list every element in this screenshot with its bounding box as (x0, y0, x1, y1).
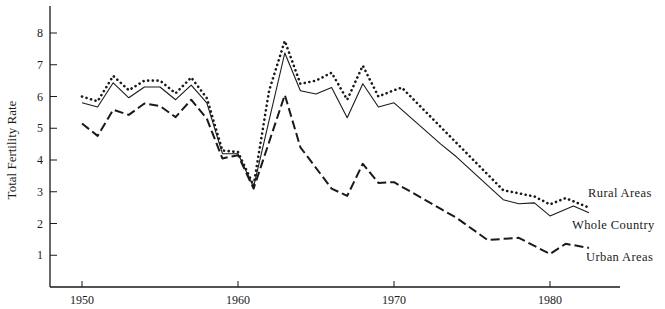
fertility-rate-chart: 12345678 1950196019701980 Total Fertilit… (0, 0, 665, 309)
x-tick-label: 1950 (70, 293, 94, 307)
x-tick-label: 1970 (382, 293, 406, 307)
y-tick-label: 1 (37, 248, 43, 262)
y-tick-label: 4 (37, 153, 43, 167)
y-tick-label: 2 (37, 217, 43, 231)
y-tick-label: 8 (37, 26, 43, 40)
x-tick-label: 1960 (226, 293, 250, 307)
y-axis-title: Total Fertility Rate (4, 100, 19, 199)
urban-areas-label: Urban Areas (586, 250, 653, 264)
rural-areas-line (82, 41, 589, 208)
y-tick-label: 3 (37, 185, 43, 199)
y-tick-label: 6 (37, 90, 43, 104)
urban-areas-line (82, 95, 589, 254)
x-tick-label: 1980 (538, 293, 562, 307)
x-axis-ticks: 1950196019701980 (70, 281, 562, 307)
whole-country-label: Whole Country (572, 218, 655, 232)
y-axis-ticks: 12345678 (37, 26, 57, 262)
rural-areas-label: Rural Areas (588, 186, 652, 200)
y-tick-label: 5 (37, 121, 43, 135)
y-tick-label: 7 (37, 58, 43, 72)
